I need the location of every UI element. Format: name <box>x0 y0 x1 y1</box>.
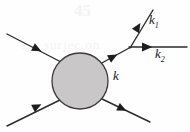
label-k1-subscript: 1 <box>155 21 159 30</box>
diagram-canvas <box>0 0 190 132</box>
internal-line-k <box>100 47 131 64</box>
outgoing-line-lower-right <box>100 98 150 122</box>
arrowhead-outgoing-lower-right <box>116 103 128 115</box>
feynman-diagram-figure: 45 La surjec on <box>0 0 190 132</box>
arrowhead-internal-k <box>107 51 119 63</box>
label-k: k <box>113 69 119 82</box>
arrowhead-incoming-upper-left <box>31 43 43 55</box>
label-k1: k1 <box>149 13 159 30</box>
label-k2-subscript: 2 <box>161 55 165 64</box>
incoming-line-lower-left <box>7 100 60 126</box>
label-k-text: k <box>113 68 119 83</box>
interaction-blob <box>52 53 108 109</box>
label-k2: k2 <box>155 47 165 64</box>
incoming-line-upper-left <box>7 34 61 62</box>
arrowhead-outgoing-k2 <box>142 42 152 51</box>
incoming-line-lower-left-stroke <box>7 100 60 126</box>
